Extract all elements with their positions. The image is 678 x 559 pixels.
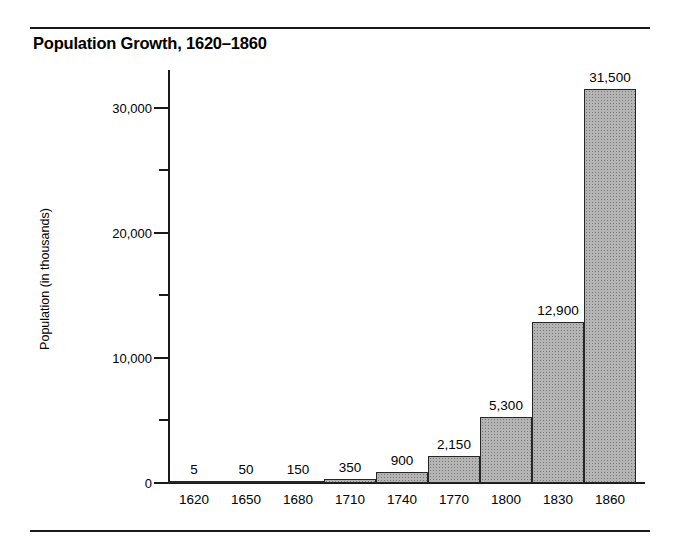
y-axis-tick-label: 10,000 — [112, 350, 152, 365]
x-axis-tick-label: 1680 — [283, 492, 313, 507]
bar — [324, 479, 376, 483]
y-axis-tick-major — [154, 357, 168, 359]
top-rule — [30, 27, 650, 29]
bar — [584, 89, 636, 483]
bar-value-label: 12,900 — [537, 303, 578, 318]
y-axis-tick-minor — [159, 419, 168, 421]
y-axis-title: Population (in thousands) — [38, 149, 52, 409]
x-axis-tick-label: 1800 — [491, 492, 521, 507]
plot-area: 010,00020,00030,0005501503509002,1505,30… — [168, 70, 636, 483]
bar — [220, 481, 272, 483]
y-axis-tick-label: 0 — [145, 476, 152, 491]
y-axis-tick-major — [154, 107, 168, 109]
chart-title: Population Growth, 1620–1860 — [33, 34, 267, 53]
bottom-rule — [30, 530, 650, 532]
y-axis-tick-minor — [159, 294, 168, 296]
bar-value-label: 350 — [339, 460, 362, 475]
bar-value-label: 31,500 — [589, 70, 630, 85]
bar — [376, 472, 428, 483]
bar — [272, 481, 324, 483]
x-axis-tick-label: 1770 — [439, 492, 469, 507]
bar — [428, 456, 480, 483]
x-axis-tick-label: 1860 — [595, 492, 625, 507]
bar-value-label: 5 — [190, 462, 198, 477]
x-axis-tick-label: 1740 — [387, 492, 417, 507]
bar-value-label: 150 — [287, 462, 310, 477]
y-axis-tick-label: 20,000 — [112, 225, 152, 240]
bar-value-label: 900 — [391, 453, 414, 468]
y-axis-tick-major — [154, 232, 168, 234]
x-axis-tick-label: 1620 — [179, 492, 209, 507]
y-axis-tick-label: 30,000 — [112, 100, 152, 115]
bar — [168, 481, 220, 483]
x-axis-tick-label: 1650 — [231, 492, 261, 507]
figure: Population Growth, 1620–1860 Population … — [0, 0, 678, 559]
x-axis-tick-label: 1710 — [335, 492, 365, 507]
x-axis-tick-label: 1830 — [543, 492, 573, 507]
bar — [480, 417, 532, 483]
bar-value-label: 50 — [238, 462, 253, 477]
y-axis-tick-major — [154, 482, 168, 484]
bar — [532, 322, 584, 483]
bar-value-label: 5,300 — [489, 398, 523, 413]
y-axis-tick-minor — [159, 169, 168, 171]
bar-value-label: 2,150 — [437, 437, 471, 452]
